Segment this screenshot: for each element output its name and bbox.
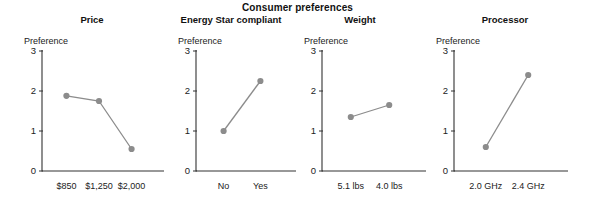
axis-lines bbox=[196, 50, 296, 171]
panel-energy-star-compliant: Energy Star compliantPreference0123NoYes bbox=[172, 0, 290, 204]
data-line bbox=[224, 81, 261, 131]
data-point-marker bbox=[257, 78, 263, 84]
plot-area bbox=[172, 0, 290, 204]
data-line bbox=[351, 105, 389, 117]
data-point-marker bbox=[221, 128, 227, 134]
plot-area bbox=[298, 0, 422, 204]
data-point-marker bbox=[386, 102, 392, 108]
data-point-marker bbox=[525, 72, 531, 78]
panel-weight: WeightPreference01235.1 lbs4.0 lbs bbox=[298, 0, 422, 204]
data-point-marker bbox=[63, 93, 69, 99]
data-point-marker bbox=[128, 146, 134, 152]
data-point-marker bbox=[348, 114, 354, 120]
data-line bbox=[486, 75, 528, 147]
data-point-marker bbox=[96, 98, 102, 104]
plot-area bbox=[430, 0, 580, 204]
axis-lines bbox=[42, 50, 164, 171]
plot-area bbox=[18, 0, 166, 204]
panel-price: PricePreference0123$850$1,250$2,000 bbox=[18, 0, 166, 204]
axis-lines bbox=[322, 50, 426, 171]
axis-lines bbox=[454, 50, 568, 171]
panel-processor: ProcessorPreference01232.0 GHz2.4 GHz bbox=[430, 0, 580, 204]
consumer-preferences-chart: Consumer preferences PricePreference0123… bbox=[0, 0, 595, 204]
data-point-marker bbox=[483, 144, 489, 150]
